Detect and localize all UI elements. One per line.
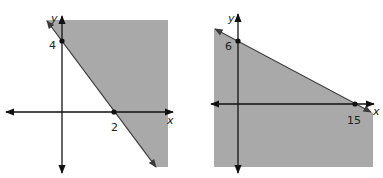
- right-x-intercept-label: 15: [347, 114, 361, 127]
- left-y-axis-label: y: [50, 12, 58, 25]
- graphs-canvas: 4 2 x y 6 15 x y: [0, 0, 383, 178]
- right-point-y-intercept: [235, 38, 240, 43]
- right-y-axis-label: y: [227, 12, 235, 25]
- left-x-axis-label: x: [166, 114, 174, 127]
- left-point-y-intercept: [59, 38, 64, 43]
- left-point-x-intercept: [111, 109, 116, 114]
- right-graph: 6 15 x y: [211, 12, 380, 173]
- left-x-intercept-label: 2: [111, 121, 118, 134]
- left-y-intercept-label: 4: [49, 39, 56, 52]
- right-point-x-intercept: [352, 101, 357, 106]
- right-x-axis-label: x: [372, 105, 380, 118]
- left-graph: 4 2 x y: [6, 12, 174, 173]
- right-y-intercept-label: 6: [225, 40, 232, 53]
